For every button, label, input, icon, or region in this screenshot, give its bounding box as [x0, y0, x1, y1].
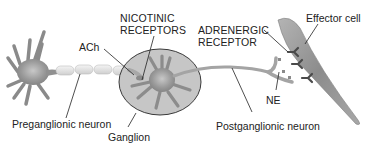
ne-granules [278, 58, 291, 79]
label-adrenergic-receptor-line1: ADRENERGIC [198, 24, 269, 36]
label-ach: ACh [79, 41, 99, 53]
label-adrenergic-receptor-line2: RECEPTOR [198, 36, 257, 48]
autonomic-pathway-diagram: NICOTINIC RECEPTORS ACh ADRENERGIC RECEP… [0, 0, 373, 150]
effector-cell-shape [278, 18, 360, 124]
label-postganglionic-neuron: Postganglionic neuron [216, 120, 320, 132]
label-effector-cell: Effector cell [306, 12, 361, 24]
myelin-sheath [56, 65, 129, 75]
label-nicotinic-receptors-line1: NICOTINIC [120, 12, 175, 24]
preganglionic-soma [8, 32, 58, 104]
label-ne: NE [266, 94, 281, 106]
label-preganglionic-neuron: Preganglionic neuron [12, 118, 111, 130]
label-nicotinic-receptors-line2: RECEPTORS [120, 24, 186, 36]
label-ganglion: Ganglion [108, 131, 150, 143]
